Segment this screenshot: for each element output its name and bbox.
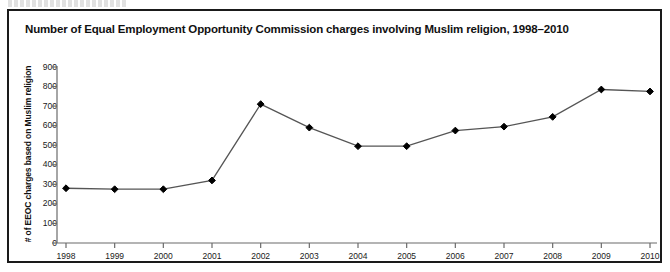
scan-artifact-top-strip [8, 0, 128, 7]
x-axis-tick-label: 2001 [192, 252, 232, 261]
chart-plot-area: # of EEOC charges based on Muslim religi… [9, 11, 664, 265]
x-axis-tick-labels: 1998199920002001200220032004200520062007… [9, 11, 664, 265]
x-axis-tick-label: 2009 [581, 252, 621, 261]
x-axis-tick-label: 1999 [95, 252, 135, 261]
x-axis-tick-label: 2007 [484, 252, 524, 261]
x-axis-tick-label: 2010 [630, 252, 670, 261]
x-axis-tick-label: 2002 [241, 252, 281, 261]
x-axis-tick-label: 2004 [338, 252, 378, 261]
x-axis-tick-label: 2006 [435, 252, 475, 261]
x-axis-tick-label: 1998 [46, 252, 86, 261]
x-axis-tick-label: 2003 [289, 252, 329, 261]
x-axis-tick-label: 2008 [533, 252, 573, 261]
x-axis-tick-label: 2005 [387, 252, 427, 261]
x-axis-tick-label: 2000 [143, 252, 183, 261]
figure-frame: Number of Equal Employment Opportunity C… [7, 9, 662, 263]
